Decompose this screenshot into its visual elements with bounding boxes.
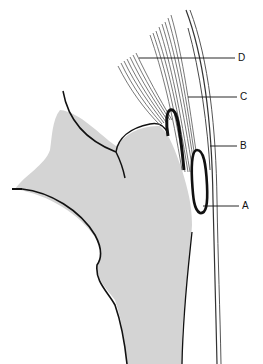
fiber-bundle-d <box>118 53 172 125</box>
bursa-a <box>192 150 208 213</box>
diagram-canvas: D C B A <box>0 0 263 364</box>
label-b: B <box>240 141 247 151</box>
label-c: C <box>240 92 247 102</box>
anatomy-drawing <box>0 0 263 364</box>
label-d: D <box>238 53 245 63</box>
label-a: A <box>242 201 249 211</box>
bone-shape <box>15 110 192 364</box>
